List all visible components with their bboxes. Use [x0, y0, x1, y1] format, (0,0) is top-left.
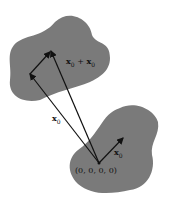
origin-label: (0, 0, 0, 0) — [75, 166, 117, 175]
xh-label: x0 — [114, 147, 123, 159]
diagram: x0 + x0 x0 x0 (0, 0, 0, 0) — [0, 0, 176, 211]
x0-label: x0 — [52, 113, 61, 125]
sum-label: x0 + x0 — [66, 56, 95, 68]
diagram-shapes — [0, 0, 176, 211]
origin-point — [98, 162, 101, 165]
